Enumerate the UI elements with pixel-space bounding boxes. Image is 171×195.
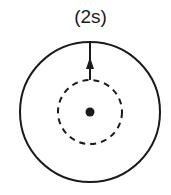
arrow-head-icon — [86, 57, 94, 69]
nucleus-dot — [86, 108, 95, 117]
orbital-diagram: (2s) — [0, 0, 171, 195]
orbital-figure — [0, 0, 171, 195]
